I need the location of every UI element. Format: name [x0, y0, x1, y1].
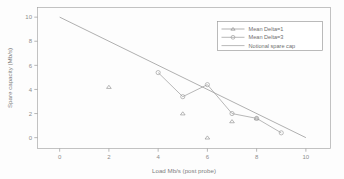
scatter-plot-canvas: 0246810 0246810 Load Mb/s (post probe) S…	[0, 0, 344, 179]
y-tick-label: 10	[25, 14, 32, 20]
legend-label: Mean Delta=1	[249, 26, 284, 32]
legend-label: Mean Delta=3	[249, 34, 284, 40]
x-tick-label: 10	[303, 154, 310, 160]
chart-legend[interactable]: Mean Delta=1Mean Delta=3Notional spare c…	[218, 22, 323, 51]
chart-figure: 0246810 0246810 Load Mb/s (post probe) S…	[0, 0, 344, 179]
legend-label: Notional spare cap	[249, 43, 296, 49]
y-axis-title: Spare capacity (Mb/s)	[6, 48, 13, 108]
x-axis-title: Load Mb/s (post probe)	[152, 167, 216, 174]
